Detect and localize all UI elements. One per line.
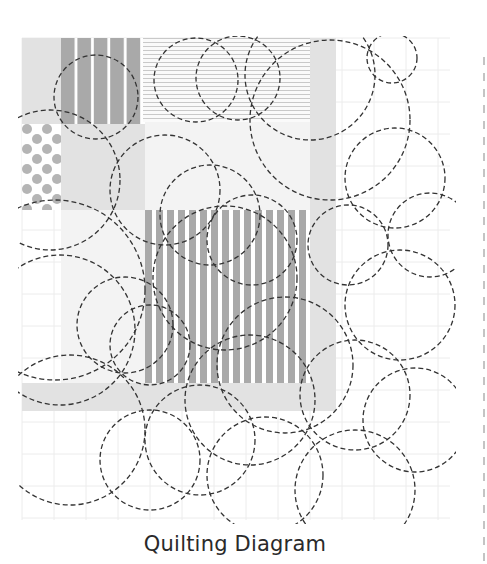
right-light-band (310, 38, 336, 383)
left-very-light-column (61, 210, 145, 383)
diagram-caption: Quilting Diagram (0, 532, 470, 556)
middle-left-light-block (61, 124, 145, 210)
bottom-light-band (22, 383, 336, 411)
quilting-diagram (0, 0, 487, 564)
center-very-light-block (145, 122, 310, 210)
top-vertical-stripe-block (61, 38, 143, 124)
stitch-circle (363, 368, 467, 472)
dot-block (22, 124, 61, 210)
fabric-blocks (22, 38, 336, 411)
stitch-circle (388, 193, 472, 277)
stitch-circle (345, 128, 445, 228)
